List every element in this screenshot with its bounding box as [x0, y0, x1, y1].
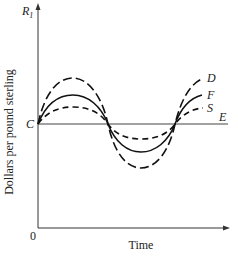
x-axis-label: Time — [129, 238, 154, 252]
x-axis-arrow-icon — [223, 226, 230, 231]
reference-level-label: C — [26, 117, 35, 131]
series-s-label: S — [207, 101, 213, 115]
y-axis-top-label: R1 — [21, 4, 33, 20]
y-axis-label: Dollars per pound sterling — [2, 69, 16, 195]
origin-label: 0 — [30, 229, 36, 243]
series-f-label: F — [206, 88, 215, 102]
series-d-label: D — [206, 71, 216, 85]
series-d-curve — [38, 78, 202, 168]
series-e-label: E — [218, 110, 227, 124]
y-axis-arrow-icon — [36, 3, 41, 10]
chart: R1 C 0 Time Dollars per pound sterling D… — [0, 0, 238, 262]
